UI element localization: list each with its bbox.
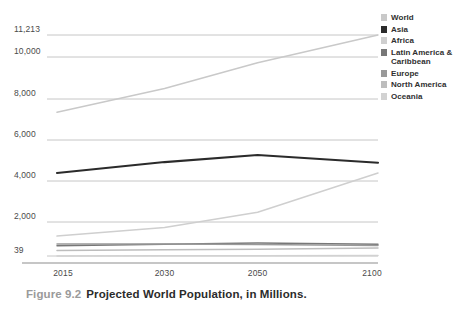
caption-figure-number: Figure 9.2 [26,288,81,300]
legend-item: Europe [381,69,468,79]
y-axis-tick-label: 10,000 [14,46,41,56]
figure-container: 392,0004,0006,0008,00010,00011,213 20152… [0,0,468,309]
legend-item-label: Asia [391,25,408,35]
legend-item-label: Oceania [391,92,422,102]
series-line [57,248,378,250]
series-line [57,255,378,256]
y-axis-tick-label: 8,000 [14,88,36,98]
legend-item-label: Africa [391,36,414,46]
line-chart-svg [0,0,380,282]
series-line [57,173,378,236]
legend-swatch-icon [381,49,387,56]
x-axis-tick-label: 2030 [155,268,175,278]
legend-item-label: Latin America & Caribbean [391,48,452,67]
legend-item: Oceania [381,92,468,102]
x-axis-tick-label: 2050 [248,268,268,278]
x-axis-tick-label: 2100 [362,268,382,278]
legend-swatch-icon [381,26,387,33]
legend-swatch-icon [381,37,387,44]
legend-item-label: Europe [391,69,419,79]
y-axis-tick-label: 6,000 [14,129,36,139]
y-axis-tick-label: 2,000 [14,211,36,221]
caption-title: Projected World Population, in Millions. [86,288,306,300]
legend-item-label: World [391,13,414,23]
y-axis-tick-label: 11,213 [14,24,40,34]
legend-item: Africa [381,36,468,46]
legend-swatch-icon [381,14,387,21]
series-line [57,35,378,112]
legend-swatch-icon [381,70,387,77]
legend-item: Asia [381,25,468,35]
legend-swatch-icon [381,93,387,100]
y-axis-tick-label: 39 [14,245,24,255]
legend-swatch-icon [381,81,387,88]
legend-item: World [381,13,468,23]
x-axis-tick-label: 2015 [53,268,73,278]
legend-item: Latin America & Caribbean [381,48,468,67]
y-axis-tick-label: 4,000 [14,170,36,180]
legend-item: North America [381,80,468,90]
chart-plot-area [0,0,380,282]
series-line [57,155,378,173]
figure-caption: Figure 9.2Projected World Population, in… [26,288,307,300]
legend-item-label: North America [391,80,446,90]
chart-legend: WorldAsiaAfricaLatin America & Caribbean… [381,13,468,103]
